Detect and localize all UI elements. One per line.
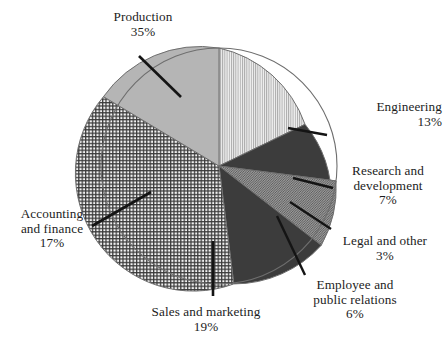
pie-label-legal-name: Legal and other	[343, 233, 427, 248]
pie-label-research-line1: Research and	[352, 163, 424, 178]
pie-label-accounting-line2: and finance	[4, 222, 100, 237]
pie-label-engineering-value: 13%	[330, 115, 442, 130]
pie-label-sales-value: 19%	[128, 320, 284, 335]
pie-label-research-line2: development	[334, 179, 442, 194]
pie-label-employee-line1: Employee and	[316, 277, 393, 292]
pie-label-legal-and-other: Legal and other 3%	[328, 234, 442, 263]
pie-label-sales-name: Sales and marketing	[152, 304, 261, 319]
pie-label-production-value: 35%	[84, 25, 202, 40]
pie-label-accounting-line1: Accounting	[21, 206, 84, 221]
pie-label-production-name: Production	[114, 9, 173, 24]
pie-label-accounting-and-finance: Accounting and finance 17%	[4, 207, 100, 251]
pie-label-production: Production 35%	[84, 10, 202, 39]
pie-label-sales-and-marketing: Sales and marketing 19%	[128, 305, 284, 334]
pie-label-research-and-development: Research and development 7%	[334, 164, 442, 208]
pie-label-employee-value: 6%	[294, 307, 416, 322]
pie-label-engineering: Engineering 13%	[330, 100, 442, 129]
pie-label-engineering-name: Engineering	[376, 99, 442, 114]
pie-label-legal-value: 3%	[328, 249, 442, 264]
pie-label-employee-and-public-relations: Employee and public relations 6%	[294, 278, 416, 322]
pie-label-research-value: 7%	[334, 193, 442, 208]
pie-label-accounting-value: 17%	[4, 236, 100, 251]
pie-label-employee-line2: public relations	[294, 293, 416, 308]
